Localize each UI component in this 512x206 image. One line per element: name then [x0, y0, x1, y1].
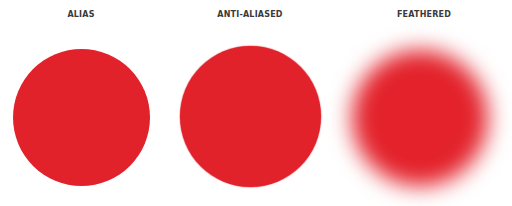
- label-feathered: FEATHERED: [397, 10, 451, 19]
- label-alias: ALIAS: [67, 10, 94, 19]
- aliased-circle: [13, 49, 150, 186]
- label-anti-aliased: ANTI-ALIASED: [217, 10, 282, 19]
- anti-aliased-circle: [180, 46, 321, 187]
- feathered-circle: [352, 50, 488, 186]
